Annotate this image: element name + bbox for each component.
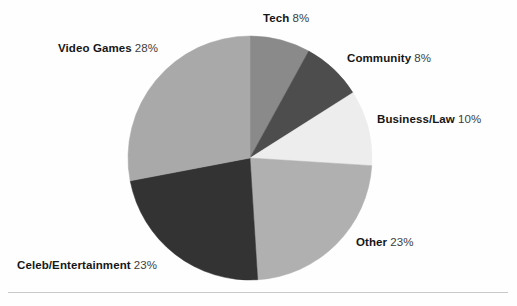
pie-label-business-law-percent: 10% xyxy=(458,113,481,125)
pie-slices xyxy=(128,36,372,280)
pie-label-business-law-name: Business/Law xyxy=(377,113,455,125)
figure-baseline-rule xyxy=(8,292,508,293)
pie-label-video-games-percent: 28% xyxy=(135,42,158,54)
pie-label-business-law: Business/Law10% xyxy=(377,113,481,126)
pie-label-celeb-entertainment-name: Celeb/Entertainment xyxy=(17,259,131,271)
pie-chart-figure: Tech8% Community8% Business/Law10% Other… xyxy=(0,0,517,306)
pie-label-video-games: Video Games28% xyxy=(58,42,158,55)
pie-slice-video-games[interactable] xyxy=(128,36,250,181)
pie-label-other: Other23% xyxy=(356,236,414,249)
pie-label-celeb-entertainment: Celeb/Entertainment23% xyxy=(17,259,157,272)
pie-label-community: Community8% xyxy=(347,52,431,65)
pie-label-other-percent: 23% xyxy=(390,236,413,248)
pie-label-tech: Tech8% xyxy=(263,12,309,25)
pie-slice-other[interactable] xyxy=(250,158,372,280)
pie-label-other-name: Other xyxy=(356,236,387,248)
pie-label-celeb-entertainment-percent: 23% xyxy=(134,259,157,271)
pie-label-tech-name: Tech xyxy=(263,12,289,24)
pie-label-community-name: Community xyxy=(347,52,411,64)
pie-label-tech-percent: 8% xyxy=(292,12,309,24)
pie-label-community-percent: 8% xyxy=(414,52,431,64)
pie-label-video-games-name: Video Games xyxy=(58,42,132,54)
